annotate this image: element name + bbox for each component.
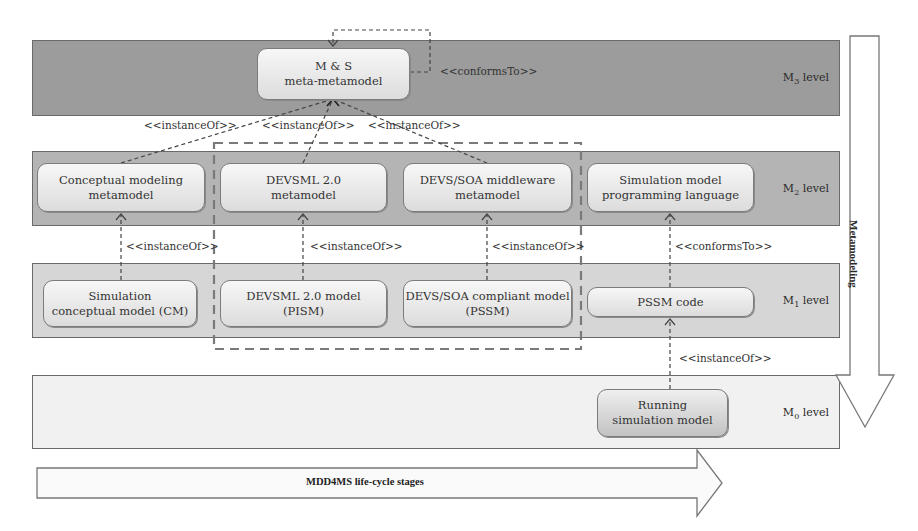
instance-of-label-conceptual: <<instanceOf>> bbox=[144, 119, 237, 131]
instance-of-label-pism: <<instanceOf>> bbox=[310, 240, 403, 252]
devsml-metamodel-node: DEVSML 2.0 metamodel bbox=[220, 163, 387, 212]
instance-of-label-devssoa: <<instanceOf>> bbox=[368, 119, 461, 131]
devs-soa-compliant-model-node: DEVS/SOA compliant model (PSSM) bbox=[403, 280, 572, 327]
lifecycle-label: MDD4MS life-cycle stages bbox=[306, 476, 424, 487]
instance-of-label-running: <<instanceOf>> bbox=[679, 352, 772, 364]
metamodeling-arrow bbox=[836, 36, 894, 427]
devsml-model-node: DEVSML 2.0 model (PISM) bbox=[220, 280, 387, 327]
metamodeling-label: Metamodeling bbox=[848, 220, 860, 288]
running-simulation-model-node: Running simulation model bbox=[597, 389, 728, 437]
instance-of-label-devsml: <<instanceOf>> bbox=[262, 119, 355, 131]
pssm-code-node: PSSM code bbox=[587, 287, 754, 317]
conforms-to-label-pssm-code: <<conformsTo>> bbox=[675, 240, 772, 252]
conforms-to-label-m3: <<conformsTo>> bbox=[440, 65, 537, 77]
ms-meta-metamodel-node: M & S meta-metamodel bbox=[257, 48, 410, 100]
simulation-conceptual-model-node: Simulation conceptual model (CM) bbox=[43, 280, 197, 327]
connector-layer bbox=[0, 0, 918, 531]
instance-of-label-cm: <<instanceOf>> bbox=[126, 240, 219, 252]
conceptual-modeling-metamodel-node: Conceptual modeling metamodel bbox=[37, 163, 205, 212]
simulation-programming-language-node: Simulation model programming language bbox=[587, 163, 754, 212]
instance-of-label-pssm: <<instanceOf>> bbox=[492, 240, 585, 252]
devs-soa-middleware-metamodel-node: DEVS/SOA middleware metamodel bbox=[403, 163, 572, 212]
